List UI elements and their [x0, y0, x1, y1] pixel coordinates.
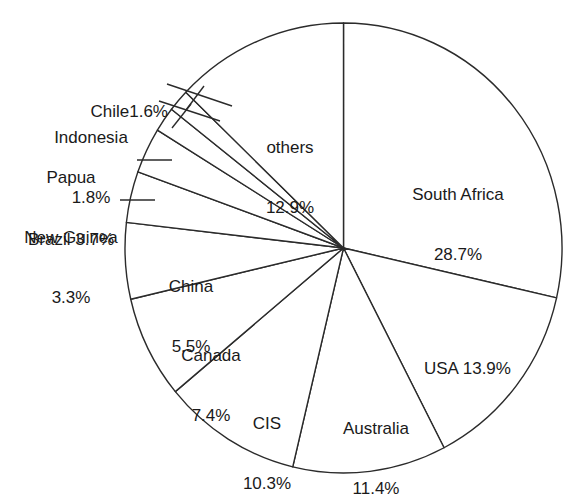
slice-label-australia-line1: Australia	[318, 419, 434, 439]
slice-label-south-africa-line1: South Africa	[388, 185, 528, 205]
slice-label-others-line2: 12.9%	[230, 198, 350, 218]
slice-label-australia: Australia 11.4%	[318, 379, 434, 498]
slice-label-others-line1: others	[230, 138, 350, 158]
slice-label-indonesia-line2: 1.8%	[28, 188, 154, 208]
slice-label-south-africa-line2: 28.7%	[388, 245, 528, 265]
slice-label-canada-line2: 7.4%	[156, 406, 266, 426]
slice-label-cis-line2: 10.3%	[225, 474, 309, 494]
slice-label-china-line2: 5.5%	[140, 337, 242, 357]
slice-label-usa-line1: USA 13.9%	[424, 359, 564, 379]
slice-label-chile: Chile1.6%	[20, 62, 168, 162]
slice-label-others: others 12.9%	[230, 98, 350, 258]
slice-label-papua-line3: 3.3%	[8, 288, 134, 308]
slice-label-south-africa: South Africa 28.7%	[388, 145, 528, 305]
slice-label-chile-line1: Chile1.6%	[20, 102, 168, 122]
slice-label-china: China 5.5%	[140, 237, 242, 397]
slice-label-australia-line2: 11.4%	[318, 479, 434, 498]
slice-label-china-line1: China	[140, 277, 242, 297]
slice-label-usa: USA 13.9%	[424, 319, 564, 419]
